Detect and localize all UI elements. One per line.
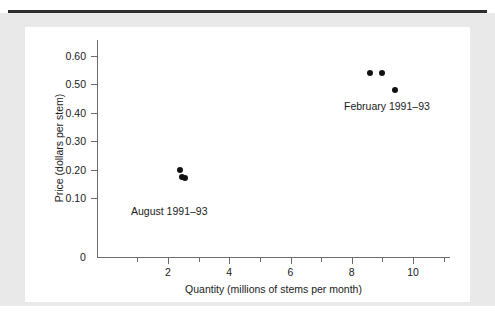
x-axis-line [97,257,450,258]
x-minor-tick-mark [199,258,200,262]
x-minor-tick-mark [444,258,445,262]
x-minor-tick-mark [321,258,322,262]
y-tick-mark [91,170,97,171]
figure-page: 0.100.200.300.400.500.60 246810 0 Februa… [0,0,495,319]
series-label-february: February 1991–93 [344,100,430,112]
origin-tick-label: 0 [80,252,86,263]
x-tick-mark [291,258,292,264]
scatter-plot: 0.100.200.300.400.500.60 246810 0 Februa… [0,0,495,319]
x-minor-tick-mark [137,258,138,262]
x-minor-tick-mark [260,258,261,262]
y-tick-mark [91,141,97,142]
y-axis-line [97,40,98,258]
data-point [177,167,183,173]
data-point [379,70,385,76]
x-tick-label: 6 [278,267,304,278]
y-tick-mark [91,56,97,57]
y-tick-mark [91,84,97,85]
data-point [367,70,373,76]
y-tick-mark [91,198,97,199]
y-tick-mark [91,113,97,114]
x-axis-title: Quantity (millions of stems per month) [97,283,450,295]
x-tick-label: 8 [339,267,365,278]
series-label-august: August 1991–93 [131,205,207,217]
x-tick-mark [413,258,414,264]
y-axis-title: Price (dollars per stem) [53,68,65,228]
x-tick-mark [168,258,169,264]
x-tick-label: 10 [400,267,426,278]
data-point [182,175,188,181]
y-tick-label: 0.60 [52,51,86,62]
x-tick-label: 4 [216,267,242,278]
x-minor-tick-mark [382,258,383,262]
x-tick-mark [229,258,230,264]
data-point [392,87,398,93]
x-tick-mark [352,258,353,264]
x-tick-label: 2 [155,267,181,278]
